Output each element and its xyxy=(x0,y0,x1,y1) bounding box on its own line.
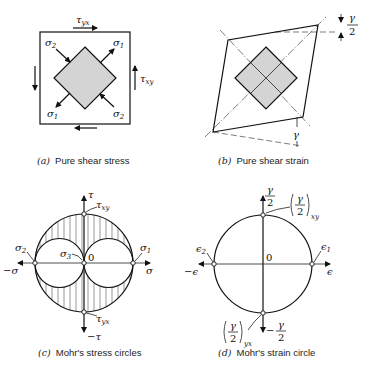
origin-label: 0 xyxy=(88,252,94,263)
sigma2-compressive-arrow-br xyxy=(100,94,114,107)
caption-b: (b)Pure shear strain xyxy=(218,155,309,166)
caption-d: (d)Mohr's strain circle xyxy=(218,347,315,358)
neg-gamma-half-num: γ xyxy=(278,319,284,330)
svg-text:2: 2 xyxy=(297,206,303,217)
epsilon-axis-label: ϵ xyxy=(327,266,333,277)
gamma-yx-point xyxy=(261,311,265,315)
panel-a-pure-shear-stress: τyx τxy σ1 σ2 σ1 σ2 (a)Pure shear stress xyxy=(35,14,154,166)
origin-label: 0 xyxy=(266,252,272,263)
epsilon2-leader xyxy=(207,253,213,262)
tau-xy-label: τxy xyxy=(96,199,110,212)
caption-a: (a)Pure shear stress xyxy=(37,155,130,166)
caption-c: (c)Mohr's stress circles xyxy=(38,347,142,358)
tau-xy-point xyxy=(82,212,86,216)
sigma1-tensile-arrow-tr xyxy=(100,49,114,63)
sigma1-label-tr: σ1 xyxy=(113,37,124,50)
sigma3-point xyxy=(82,261,86,265)
neg-tau-axis-label: −τ xyxy=(87,331,101,342)
neg-gamma-half-den: 2 xyxy=(278,332,284,343)
epsilon2-label: ϵ2 xyxy=(196,243,207,256)
svg-text:γ: γ xyxy=(230,320,236,331)
gamma-half-axis-num: γ xyxy=(267,184,273,195)
sigma1-point xyxy=(131,261,135,265)
gamma-reference-line xyxy=(213,132,302,146)
tau-yx-label: τyx xyxy=(76,14,90,27)
gamma-half-axis-den: 2 xyxy=(267,197,273,208)
neg-gamma-half-minus: − xyxy=(266,325,274,336)
sigma2-label-br: σ2 xyxy=(113,108,125,121)
neg-epsilon-axis-label: −ϵ xyxy=(184,266,198,277)
epsilon1-leader xyxy=(314,251,321,262)
figure: τyx τxy σ1 σ2 σ1 σ2 (a)Pure shear stress… xyxy=(0,0,378,369)
sigma2-point xyxy=(33,261,37,265)
tau-xy-label: τxy xyxy=(140,73,154,86)
sigma1-leader xyxy=(135,253,142,261)
sigma-axis-label: σ xyxy=(146,265,154,276)
svg-text:2: 2 xyxy=(230,333,236,344)
tau-axis-label: τ xyxy=(88,189,94,200)
gamma-xy-point xyxy=(261,213,265,217)
tau-yx-point xyxy=(82,310,86,314)
sigma2-label-tl: σ2 xyxy=(45,37,57,50)
tau-yx-label: τyx xyxy=(96,313,110,326)
svg-text:γ: γ xyxy=(297,193,303,204)
sigma2-compressive-arrow-tl xyxy=(56,49,70,62)
epsilon2-point xyxy=(212,262,216,266)
gamma-yx-leader xyxy=(248,315,261,330)
gamma-half-denominator: 2 xyxy=(349,26,355,37)
sigma2-label: σ2 xyxy=(15,242,27,255)
epsilon1-point xyxy=(310,262,314,266)
panel-b-pure-shear-strain: γ 2 γ (b)Pure shear strain xyxy=(205,12,358,166)
panel-d-mohr-strain-circle: γ 2 − γ 2 ϵ −ϵ 0 ϵ2 ϵ1 γ 2 xy γ 2 yx xyxy=(184,184,333,358)
gamma-xy-label: γ 2 xy xyxy=(291,193,320,221)
gamma-yx-label: γ 2 yx xyxy=(224,320,252,348)
sigma1-tensile-arrow-bl xyxy=(56,93,70,107)
sigma1-label-bl: σ1 xyxy=(47,108,58,121)
gamma-label: γ xyxy=(293,129,299,140)
panel-c-mohr-stress-circles: τ −τ σ −σ 0 τxy τyx σ2 σ1 σ3 (c)Mohr's s… xyxy=(3,189,154,358)
epsilon1-label: ϵ1 xyxy=(321,241,331,254)
sigma2-leader xyxy=(27,252,34,261)
svg-text:xy: xy xyxy=(311,213,320,221)
neg-sigma-axis-label: −σ xyxy=(3,265,19,276)
gamma-half-numerator: γ xyxy=(349,12,355,23)
